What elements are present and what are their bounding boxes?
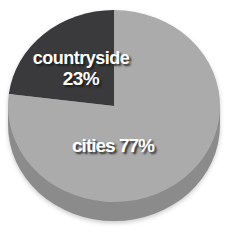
pie-label-countryside-text: countryside: [33, 48, 130, 68]
pie-chart-svg: [0, 0, 227, 236]
pie-label-countryside-value: 23%: [33, 69, 130, 88]
pie-chart: countryside 23% cities 77%: [0, 0, 227, 236]
pie-label-countryside: countryside 23%: [33, 49, 130, 88]
pie-label-cities: cities 77%: [72, 136, 154, 155]
